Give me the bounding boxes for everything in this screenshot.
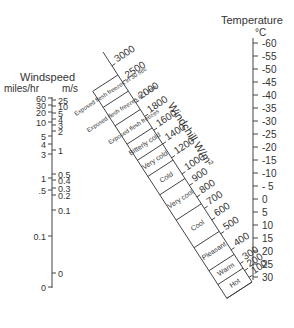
temperature-axis: -60-55-50-45-40-35-30-25-20-15-10- 50510… xyxy=(253,38,277,283)
ms-tick-label: 0.1 xyxy=(58,206,71,216)
windspeed-unit-mph: miles/hr xyxy=(4,83,39,94)
mph-tick-label: 0.1 xyxy=(33,232,46,242)
mph-tick-label: 1 xyxy=(41,174,46,184)
temperature-tick-label: - 5 xyxy=(262,181,274,192)
windchill-band-label: Very cold xyxy=(141,149,170,171)
ms-tick-label: 0.2 xyxy=(58,191,71,201)
temperature-tick-label: -40 xyxy=(262,90,277,101)
mph-tick-label: 20 xyxy=(36,108,46,118)
temperature-unit: °C xyxy=(255,27,266,38)
temperature-tick-label: -25 xyxy=(262,129,277,140)
temperature-tick-label: -30 xyxy=(262,116,277,127)
windspeed-title: Windspeed xyxy=(20,71,75,83)
temperature-tick-label: -10 xyxy=(262,168,277,179)
temperature-tick-label: -60 xyxy=(262,38,277,49)
temperature-tick-label: 5 xyxy=(262,207,268,218)
ms-tick-label: 2 xyxy=(58,127,63,137)
mph-tick-label: 4 xyxy=(41,140,46,150)
windchill-tick-label: 3000 xyxy=(112,43,137,65)
windchill-tick-label: 400 xyxy=(231,230,251,249)
temperature-tick-label: 0 xyxy=(262,194,268,205)
windchill-band-label: Cold xyxy=(158,170,174,184)
windchill-tick-label: 500 xyxy=(221,214,241,233)
windchill-nomogram: -60-55-50-45-40-35-30-25-20-15-10- 50510… xyxy=(0,0,294,328)
ms-tick-label: 1 xyxy=(58,146,63,156)
temperature-tick-label: -15 xyxy=(262,155,277,166)
temperature-tick-label: -20 xyxy=(262,142,277,153)
mph-tick-label: 0 xyxy=(41,283,46,293)
windspeed-unit-ms: m/s xyxy=(62,83,78,94)
mph-tick-label: 3 xyxy=(41,150,46,160)
windspeed-axis: 2510543210.50.40.30.20.10603020105431.50… xyxy=(33,94,70,293)
ms-tick-label: 0 xyxy=(58,269,63,279)
windchill-band-label: Hot xyxy=(228,277,241,289)
temperature-tick-label: -55 xyxy=(262,51,277,62)
mph-tick-label: 10 xyxy=(36,118,46,128)
windchill-band-label: Very cool xyxy=(166,188,195,211)
temperature-tick-label: 30 xyxy=(262,272,274,283)
temperature-tick-label: -35 xyxy=(262,103,277,114)
temperature-title: Temperature xyxy=(221,14,283,26)
temperature-tick-label: 15 xyxy=(262,233,274,244)
temperature-tick-label: 20 xyxy=(262,246,274,257)
temperature-tick-label: -50 xyxy=(262,64,277,75)
mph-tick-label: .5 xyxy=(38,186,46,196)
windchill-band-label: Cool xyxy=(189,218,205,232)
windchill-band-label: Pleasant xyxy=(200,240,227,261)
windchill-axis: 3000250020001800160014001200100090080070… xyxy=(73,43,269,299)
temperature-tick-label: 10 xyxy=(262,220,274,231)
temperature-tick-label: -45 xyxy=(262,77,277,88)
